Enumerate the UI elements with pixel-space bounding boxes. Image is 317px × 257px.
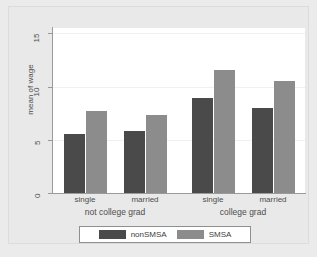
x-tick-label-0: single [75, 195, 96, 204]
y-tick-mark-5 [48, 140, 52, 141]
y-tick-label-0: 0 [33, 194, 42, 198]
bar-SMSA-single-2 [214, 70, 235, 193]
x-group-label-1: college grad [220, 207, 266, 217]
bar-nonSMSA-single-0 [64, 134, 85, 193]
x-tick-label-1: married [131, 195, 158, 204]
bar-nonSMSA-married-1 [124, 131, 145, 193]
y-axis-line [52, 27, 53, 193]
y-tick-mark-15 [48, 33, 52, 34]
y-tick-label-wrap-0: 0 [9, 193, 45, 194]
x-tick-label-2: single [203, 195, 224, 204]
legend-item-SMSA[interactable]: SMSA [177, 230, 232, 239]
y-tick-mark-10 [48, 87, 52, 88]
bar-SMSA-married-1 [146, 115, 167, 193]
bar-nonSMSA-married-3 [252, 108, 273, 193]
legend-swatch-SMSA [177, 230, 204, 239]
bars-layer [53, 28, 305, 193]
y-axis-title-label: mean of wage [26, 64, 35, 114]
y-axis-title: mean of wage [23, 7, 37, 172]
legend-item-nonSMSA[interactable]: nonSMSA [99, 230, 167, 239]
y-tick-mark-0 [48, 193, 52, 194]
legend-label-nonSMSA: nonSMSA [131, 230, 167, 239]
chart-root: 051015 mean of wage singlemarriedsinglem… [0, 0, 317, 257]
bar-SMSA-married-3 [274, 81, 295, 193]
legend-swatch-nonSMSA [99, 230, 126, 239]
bar-SMSA-single-0 [86, 111, 107, 193]
legend: nonSMSASMSA [79, 226, 251, 243]
x-tick-label-3: married [259, 195, 286, 204]
bar-nonSMSA-single-2 [192, 98, 213, 193]
x-axis-line [52, 193, 306, 194]
legend-label-SMSA: SMSA [209, 230, 232, 239]
graph-region: 051015 mean of wage singlemarriedsinglem… [8, 6, 309, 244]
x-axis-group-labels: not college gradcollege grad [53, 207, 305, 221]
x-group-label-0: not college grad [85, 207, 146, 217]
